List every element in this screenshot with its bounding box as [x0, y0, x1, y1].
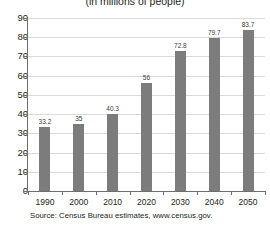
- x-axis-tick-mark: [96, 191, 97, 195]
- bar-value-label: 79.7: [197, 29, 231, 36]
- x-axis-tick-mark: [265, 191, 266, 195]
- bar-group: 79.7: [197, 18, 231, 191]
- bar-group: 35: [62, 18, 96, 191]
- bar-value-label: 83.7: [231, 21, 265, 28]
- bar: [39, 127, 50, 191]
- x-axis-tick-label: 2050: [228, 197, 268, 207]
- bar-value-label: 56: [129, 74, 163, 81]
- x-axis-tick-mark: [231, 191, 232, 195]
- plot-area: 33.23540.35672.879.783.7: [28, 18, 265, 191]
- bar-group: 56: [130, 18, 164, 191]
- bar-group: 83.7: [231, 18, 265, 191]
- bar: [141, 83, 152, 191]
- bar-value-label: 40.3: [96, 105, 130, 112]
- bar: [209, 38, 220, 191]
- source-note: Source: Census Bureau estimates, www.cen…: [30, 211, 212, 221]
- bar-group: 40.3: [96, 18, 130, 191]
- x-axis-tick-mark: [28, 191, 29, 195]
- x-axis-tick-mark: [163, 191, 164, 195]
- bar: [107, 114, 118, 191]
- x-axis-tick-mark: [62, 191, 63, 195]
- bar-group: 72.8: [163, 18, 197, 191]
- bar: [175, 51, 186, 191]
- bar: [73, 124, 84, 191]
- bar: [243, 30, 254, 191]
- bar-value-label: 35: [62, 115, 96, 122]
- y-axis-ticks: 0102030405060708090: [0, 0, 28, 226]
- x-axis-tick-mark: [197, 191, 198, 195]
- chart-title: (in millions of people): [0, 0, 270, 7]
- bar-value-label: 33.2: [28, 118, 62, 125]
- bar-chart-figure: (in millions of people) 0102030405060708…: [0, 0, 270, 226]
- bar-group: 33.2: [28, 18, 62, 191]
- x-axis-tick-mark: [130, 191, 131, 195]
- bar-value-label: 72.8: [163, 42, 197, 49]
